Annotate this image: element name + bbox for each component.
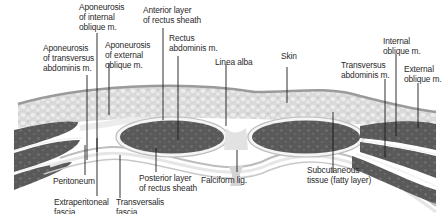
linea-alba-structure	[224, 128, 248, 150]
label-aponeurosis-transversus: Aponeurosis of transversus abdominis m.	[43, 43, 94, 73]
label-linea-alba: Linea alba	[215, 57, 253, 67]
label-aponeurosis-internal-oblique: Aponeurosis of internal oblique m.	[79, 2, 124, 32]
label-skin: Skin	[281, 51, 297, 61]
label-subcutaneous-tissue: Subcutaneous tissue (fatty layer)	[307, 165, 371, 185]
label-transversalis-fascia: Transversalis fascia	[116, 197, 164, 214]
label-transversus-abdominis: Transversus abdominis m.	[341, 60, 390, 80]
label-external-oblique: External oblique m.	[404, 64, 442, 84]
right-rectus-abdominis	[252, 121, 360, 154]
label-rectus-abdominis: Rectus abdominis m.	[169, 33, 218, 53]
label-extraperitoneal-fascia: Extraperitoneal fascia	[54, 197, 109, 214]
label-aponeurosis-external-oblique: Aponeurosis of external oblique m.	[105, 40, 150, 70]
label-posterior-layer-rectus-sheath: Posterior layer of rectus sheath	[139, 173, 197, 193]
abdominal-wall-diagram: Aponeurosis of internal oblique m. Anter…	[0, 0, 442, 214]
label-anterior-layer-rectus-sheath: Anterior layer of rectus sheath	[143, 5, 201, 25]
label-falciform-lig: Falciform lig.	[201, 175, 247, 185]
label-internal-oblique: Internal oblique m.	[383, 36, 421, 56]
label-peritoneum: Peritoneum	[53, 176, 95, 186]
left-rectus-abdominis	[120, 121, 224, 154]
